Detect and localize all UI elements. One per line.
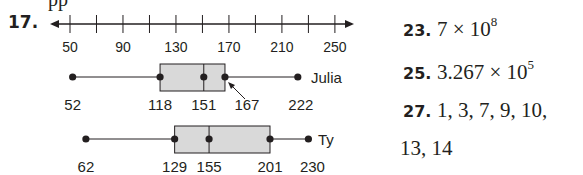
box-plot-chart: 5090130170210250 52118151167222Julia 621… — [0, 0, 380, 175]
data-point-median — [200, 73, 207, 80]
tick-label: 170 — [217, 39, 241, 55]
box-plot-ty: 62129155201230Ty — [78, 126, 335, 175]
number-line-axis: 5090130170210250 — [50, 15, 354, 55]
answer-number: 23. — [403, 21, 431, 40]
value-label-q1: 129 — [162, 158, 187, 175]
value-label-min: 52 — [64, 96, 81, 113]
value-label-q3: 167 — [234, 96, 259, 113]
right-arrow-icon — [345, 20, 354, 28]
data-point-min — [82, 135, 89, 142]
answer-25: 25. 3.267 × 105 — [403, 49, 547, 92]
answer-text: 1, 3, 7, 9, 10, — [437, 98, 547, 122]
axis-tick-labels: 5090130170210250 — [62, 39, 347, 55]
answer-number: 25. — [403, 64, 431, 83]
value-label-q1: 118 — [148, 96, 172, 113]
series-name-label: Ty — [318, 131, 334, 148]
data-point-q3 — [221, 73, 228, 80]
series-name-label: Julia — [311, 69, 343, 86]
answer-list: 23. 7 × 108 25. 3.267 × 105 27. 1, 3, 7,… — [403, 6, 547, 166]
left-arrow-icon — [50, 20, 59, 28]
tick-label: 210 — [270, 39, 294, 55]
box-plot-julia: 52118151167222Julia — [64, 64, 342, 113]
value-label-q3: 201 — [257, 158, 282, 175]
answer-27-continued: 13, 14 — [400, 130, 547, 166]
answer-number: 27. — [403, 102, 431, 121]
value-label-max: 222 — [288, 96, 313, 113]
value-label-median: 151 — [191, 96, 216, 113]
data-point-max — [305, 135, 312, 142]
value-label-median: 155 — [197, 158, 222, 175]
tick-label: 90 — [115, 39, 131, 55]
tick-label: 250 — [323, 39, 347, 55]
data-point-median — [205, 135, 212, 142]
iqr-box — [160, 64, 225, 91]
value-label-max: 230 — [300, 158, 325, 175]
data-point-q3 — [266, 135, 273, 142]
data-point-max — [294, 73, 301, 80]
data-point-min — [69, 73, 76, 80]
answer-text: 3.267 × 105 — [437, 60, 534, 84]
answer-27: 27. 1, 3, 7, 9, 10, — [403, 92, 547, 130]
data-point-q1 — [156, 73, 163, 80]
data-point-q1 — [171, 135, 178, 142]
answer-text: 7 × 108 — [437, 17, 497, 41]
answer-text: 13, 14 — [400, 136, 453, 160]
value-label-min: 62 — [78, 158, 95, 175]
answer-23: 23. 7 × 108 — [403, 6, 547, 49]
iqr-box — [175, 126, 270, 153]
tick-label: 50 — [62, 39, 78, 55]
tick-label: 130 — [164, 39, 188, 55]
